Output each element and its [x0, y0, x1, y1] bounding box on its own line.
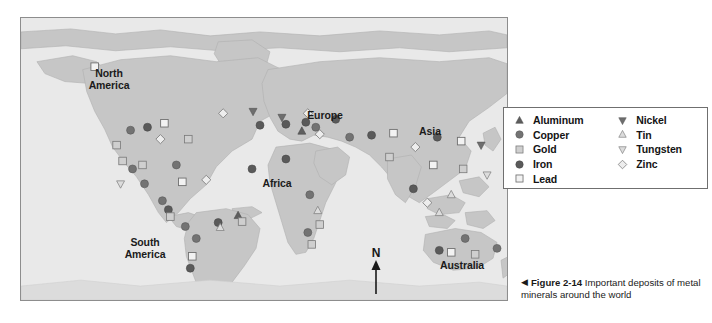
deposit-copper: [493, 244, 501, 252]
deposit-gold: [471, 251, 479, 259]
legend-column-right: NickelTinTungstenZinc: [614, 113, 707, 188]
deposit-iron: [248, 165, 256, 173]
legend-item-copper: Copper: [511, 128, 614, 143]
caption-figure-number: Figure 2-14: [531, 277, 582, 288]
legend-label-zinc: Zinc: [636, 158, 657, 170]
deposit-lead: [447, 249, 455, 257]
triangle-down-light-icon: [614, 142, 630, 156]
deposit-gold: [113, 141, 121, 149]
deposit-copper: [461, 234, 469, 242]
deposit-lead: [430, 161, 438, 169]
square-light-icon: [513, 143, 526, 156]
compass-north-label: N: [361, 246, 391, 260]
deposit-gold: [386, 153, 394, 161]
deposit-gold: [316, 221, 324, 229]
deposit-iron: [282, 155, 290, 163]
deposit-lead: [189, 253, 197, 261]
deposit-copper: [158, 197, 166, 205]
legend-label-tungsten: Tungsten: [636, 143, 682, 155]
deposit-iron: [409, 185, 417, 193]
deposit-copper: [192, 234, 200, 242]
legend-item-zinc: Zinc: [614, 157, 707, 172]
figure-caption: ◀Figure 2-14 Important deposits of metal…: [521, 277, 707, 300]
triangle-up-light-icon: [614, 128, 630, 142]
diamond-open-icon: [616, 158, 629, 171]
caption-arrow-icon: ◀: [521, 277, 528, 287]
square-open-icon: [513, 172, 526, 185]
deposit-gold: [238, 218, 246, 226]
world-map: North AmericaSouth AmericaEuropeAfricaAs…: [20, 17, 508, 301]
deposit-iron: [435, 246, 443, 254]
deposit-copper: [129, 165, 137, 173]
deposit-lead: [161, 119, 169, 127]
map-graphic: [21, 18, 507, 300]
legend-item-nickel: Nickel: [614, 113, 707, 128]
legend-item-iron: Iron: [511, 157, 614, 172]
deposit-iron: [143, 123, 151, 131]
deposit-gold: [167, 213, 175, 221]
deposit-gold: [308, 241, 316, 249]
triangle-down-light-icon: [616, 143, 629, 156]
legend-label-lead: Lead: [533, 173, 557, 185]
legend-label-gold: Gold: [533, 143, 557, 155]
legend-item-aluminum: Aluminum: [511, 113, 614, 128]
legend-item-lead: Lead: [511, 171, 614, 186]
legend-label-aluminum: Aluminum: [533, 114, 584, 126]
square-light-icon: [511, 142, 527, 156]
triangle-up-dark-icon: [511, 113, 527, 127]
triangle-down-mid-icon: [614, 113, 630, 127]
deposit-gold: [139, 161, 147, 169]
deposit-iron: [368, 131, 376, 139]
legend-label-nickel: Nickel: [636, 114, 666, 126]
deposit-copper: [172, 161, 180, 169]
circle-mid-icon: [511, 128, 527, 142]
triangle-up-dark-icon: [513, 114, 526, 127]
legend-item-gold: Gold: [511, 142, 614, 157]
legend-label-copper: Copper: [533, 129, 569, 141]
deposit-lead: [457, 137, 465, 145]
deposit-iron: [302, 118, 310, 126]
deposit-gold: [459, 165, 467, 173]
deposit-lead: [179, 178, 187, 186]
circle-dark-icon: [513, 158, 526, 171]
legend-column-left: AluminumCopperGoldIronLead: [504, 113, 614, 188]
deposit-copper: [127, 126, 135, 134]
deposit-gold: [119, 157, 127, 165]
deposit-iron: [186, 264, 194, 272]
deposit-iron: [282, 120, 290, 128]
triangle-down-mid-icon: [616, 114, 629, 127]
deposit-iron: [256, 121, 264, 129]
legend-label-iron: Iron: [533, 158, 552, 170]
deposit-lead: [390, 129, 398, 137]
deposit-copper: [306, 191, 314, 199]
triangle-up-light-icon: [616, 128, 629, 141]
legend-item-tin: Tin: [614, 128, 707, 143]
legend-item-tungsten: Tungsten: [614, 142, 707, 157]
square-open-icon: [511, 172, 527, 186]
diamond-open-icon: [614, 157, 630, 171]
deposit-copper: [304, 229, 312, 237]
deposit-copper: [312, 123, 320, 131]
compass-rose: N: [361, 246, 391, 296]
circle-dark-icon: [511, 157, 527, 171]
deposit-copper: [346, 133, 354, 141]
deposit-lead: [91, 63, 99, 71]
legend-label-tin: Tin: [636, 129, 651, 141]
deposit-gold: [185, 135, 193, 143]
deposit-iron: [433, 133, 441, 141]
deposit-copper: [181, 223, 189, 231]
circle-mid-icon: [513, 128, 526, 141]
deposit-iron: [332, 115, 340, 123]
deposit-copper: [141, 180, 149, 188]
map-legend: AluminumCopperGoldIronLead NickelTinTung…: [503, 107, 708, 189]
